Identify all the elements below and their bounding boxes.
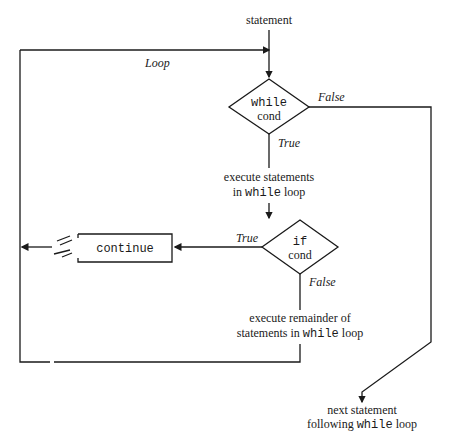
loop-back-left-line — [20, 50, 50, 362]
if-false-label: False — [308, 275, 336, 289]
while-cond: cond — [257, 109, 280, 123]
loop-label: Loop — [144, 56, 170, 70]
while-true-label: True — [278, 136, 301, 150]
remainder-line2: statements in while loop — [237, 326, 363, 341]
while-keyword: while — [251, 96, 287, 110]
start-statement-label: statement — [246, 13, 293, 27]
loop-back-bottom-line-right — [54, 344, 300, 362]
if-true-label: True — [236, 231, 259, 245]
while-false-label: False — [317, 90, 345, 104]
continue-label: continue — [96, 242, 154, 256]
flowchart: statement Loop while cond False True exe… — [0, 0, 452, 433]
remainder-line1: execute remainder of — [249, 311, 350, 325]
next-line1: next statement — [327, 403, 397, 417]
body-line2: in while loop — [233, 185, 306, 200]
next-line2: following while loop — [307, 417, 417, 432]
body-line1: execute statements — [224, 170, 315, 184]
continue-jump-marks — [54, 236, 72, 257]
if-keyword: if — [293, 235, 307, 249]
if-cond: cond — [288, 248, 311, 262]
